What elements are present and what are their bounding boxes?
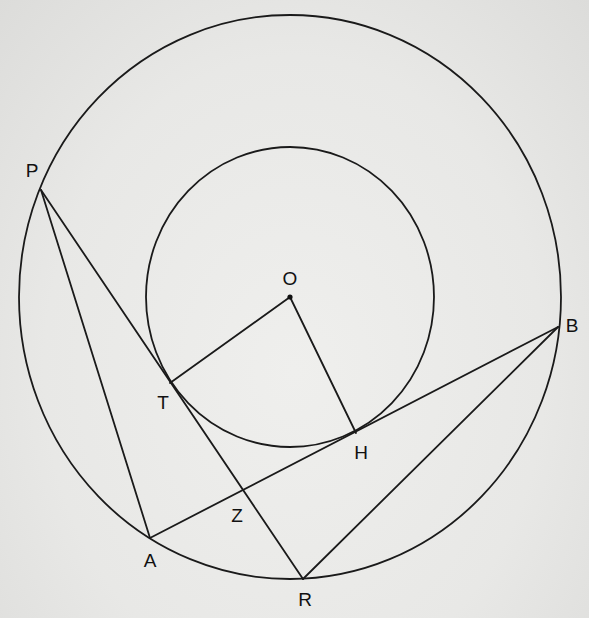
- segment-oh: [290, 297, 356, 433]
- segment-pr: [41, 190, 303, 579]
- segment-ot: [170, 297, 290, 383]
- segment-br: [303, 327, 558, 579]
- point-label-p: P: [26, 160, 39, 181]
- segments-group: [41, 190, 558, 579]
- point-label-o: O: [283, 268, 298, 289]
- points-group: [287, 294, 292, 299]
- point-label-a: A: [144, 550, 157, 571]
- labels-group: OPTHBZAR: [26, 160, 579, 610]
- center-point-o: [287, 294, 292, 299]
- point-label-r: R: [298, 589, 312, 610]
- segment-pa: [41, 190, 150, 538]
- point-label-b: B: [566, 315, 579, 336]
- geometry-figure: OPTHBZAR: [0, 0, 589, 618]
- diagram-canvas: OPTHBZAR: [0, 0, 589, 618]
- segment-ab: [150, 327, 558, 538]
- point-label-t: T: [157, 392, 169, 413]
- point-label-z: Z: [231, 505, 243, 526]
- point-label-h: H: [354, 442, 368, 463]
